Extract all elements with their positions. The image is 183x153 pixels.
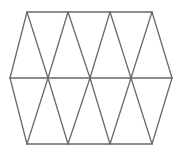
- triangulated-hexagon-diagram: [0, 0, 183, 153]
- figure-canvas: [0, 0, 183, 153]
